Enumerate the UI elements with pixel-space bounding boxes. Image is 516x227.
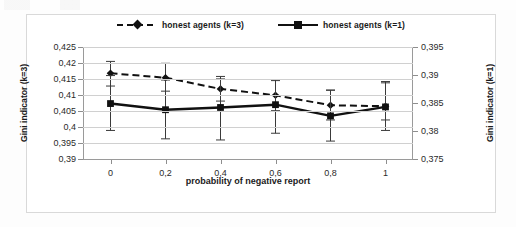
gridline (83, 47, 413, 48)
data-point-marker-square (272, 101, 279, 108)
y-axis-label-left: 0,42 (40, 58, 76, 68)
x-axis-line (83, 159, 413, 160)
data-point-marker-square (107, 100, 114, 107)
legend-item-k1[interactable]: honest agents (k=1) (278, 20, 405, 30)
data-point-marker-square (327, 112, 334, 119)
gridline (83, 79, 413, 80)
data-point-marker-square (217, 104, 224, 111)
y-axis-tick-right (413, 103, 418, 104)
y-axis-label-right: 0,385 (421, 98, 444, 108)
gridline (83, 95, 413, 96)
y-axis-tick-left (78, 79, 83, 80)
y-axis-tick-left (78, 47, 83, 48)
gridline (83, 63, 413, 64)
y-axis-label-right: 0,395 (421, 42, 444, 52)
y-axis-tick-left (78, 127, 83, 128)
gridline (83, 143, 413, 144)
y-axis-tick-left (78, 63, 83, 64)
y-axis-tick-left (78, 143, 83, 144)
y-axis-label-left: 0,405 (40, 106, 76, 116)
y-axis-label-right: 0,39 (421, 70, 439, 80)
y-axis-tick-right (413, 75, 418, 76)
dashed-line-diamond-marker-icon (117, 20, 157, 30)
y-axis-label-left: 0,415 (40, 74, 76, 84)
data-point-marker-square (382, 104, 389, 111)
data-point-marker-square (162, 106, 169, 113)
legend-label-k1: honest agents (k=1) (323, 20, 405, 30)
x-axis-title: probability of negative report (83, 176, 413, 186)
y-axis-label-right: 0,375 (421, 154, 444, 164)
y-axis-tick-left (78, 111, 83, 112)
legend-label-k3: honest agents (k=3) (162, 20, 244, 30)
y-axis-label-right: 0,38 (421, 126, 439, 136)
y-axis-title-right: Gini indicator (k=1) (485, 64, 495, 142)
chart-legend: honest agents (k=3) honest agents (k=1) (26, 14, 496, 36)
gridline (83, 111, 413, 112)
y-axis-label-left: 0,4 (40, 122, 76, 132)
y-axis-tick-left (78, 95, 83, 96)
gridline (83, 127, 413, 128)
y-axis-title-left: Gini indicator (k=3) (19, 64, 29, 142)
solid-line-square-marker-icon (278, 20, 318, 30)
y-axis-tick-right (413, 131, 418, 132)
legend-item-k3[interactable]: honest agents (k=3) (117, 20, 244, 30)
y-axis-label-left: 0,41 (40, 90, 76, 100)
y-axis-tick-right (413, 159, 418, 160)
scan-artifact (0, 0, 516, 10)
y-axis-label-left: 0,39 (40, 154, 76, 164)
y-axis-label-left: 0,395 (40, 138, 76, 148)
plot-area: 00,20,40,60,81 (83, 47, 413, 159)
y-axis-label-left: 0,425 (40, 42, 76, 52)
chart-figure: honest agents (k=3) honest agents (k=1) … (0, 0, 516, 227)
y-axis-tick-right (413, 47, 418, 48)
